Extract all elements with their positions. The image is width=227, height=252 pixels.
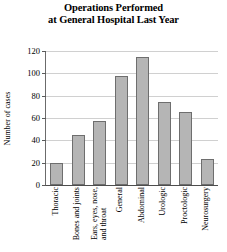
y-axis-tick-label: 100 xyxy=(27,68,40,78)
bar-slot xyxy=(154,51,176,185)
y-axis-tick-label: 40 xyxy=(32,135,41,145)
x-axis-label: Bones and joints xyxy=(73,187,82,240)
x-axis-label-slot: Thoracic xyxy=(45,187,67,251)
bar-slot xyxy=(111,51,133,185)
x-axis-label-slot: Ears, eyes, nose,and throat xyxy=(88,187,110,251)
bar xyxy=(93,121,106,185)
y-axis-tick-label: 120 xyxy=(27,46,40,56)
bar-slot xyxy=(197,51,219,185)
x-axis-label: General xyxy=(116,187,125,212)
y-axis-tick-label: 0 xyxy=(36,180,40,190)
bar-series xyxy=(46,51,218,185)
x-axis-label-line: Neurosurgery xyxy=(201,187,210,231)
x-axis-label-line: Thoracic xyxy=(51,187,60,215)
x-axis-label-slot: Urologic xyxy=(153,187,175,251)
bar xyxy=(136,57,149,185)
x-axis-label-slot: Proctologic xyxy=(174,187,196,251)
plot-area: 020406080100120 xyxy=(45,51,218,186)
chart-title-line-1: Operations Performed xyxy=(0,2,227,14)
x-axis-label: Abdominal xyxy=(138,187,147,223)
bar-slot xyxy=(132,51,154,185)
y-axis-tick-label: 20 xyxy=(32,158,41,168)
bar-slot xyxy=(68,51,90,185)
bar-chart: Operations Performed at General Hospital… xyxy=(0,0,227,252)
x-axis-label-line: General xyxy=(115,187,124,212)
bar xyxy=(72,135,85,185)
bar-slot xyxy=(175,51,197,185)
x-axis-label-slot: Bones and joints xyxy=(67,187,89,251)
bar xyxy=(50,163,63,185)
x-axis-category-labels: ThoracicBones and jointsEars, eyes, nose… xyxy=(45,187,217,251)
bar xyxy=(158,102,171,185)
chart-title-line-2: at General Hospital Last Year xyxy=(0,14,227,26)
bar xyxy=(179,112,192,185)
y-axis-tick-label: 60 xyxy=(32,113,41,123)
x-axis-label-line: Ears, eyes, nose, xyxy=(89,187,98,240)
x-axis-label-slot: Abdominal xyxy=(131,187,153,251)
x-axis-label-line: Bones and joints xyxy=(72,187,81,240)
x-axis-label-slot: General xyxy=(110,187,132,251)
x-axis-label: Thoracic xyxy=(52,187,61,215)
y-axis-tick xyxy=(42,185,46,186)
bar-slot xyxy=(46,51,68,185)
y-axis-tick-label: 80 xyxy=(32,91,41,101)
bar xyxy=(201,159,214,185)
chart-title: Operations Performed at General Hospital… xyxy=(0,2,227,26)
x-axis-label: Neurosurgery xyxy=(202,187,211,231)
x-axis-label-slot: Neurosurgery xyxy=(196,187,218,251)
y-axis-title-text: Number of cases xyxy=(4,91,13,145)
y-axis-title: Number of cases xyxy=(2,51,14,185)
x-axis-label-line: and throat xyxy=(99,187,108,240)
x-axis-label: Proctologic xyxy=(181,187,190,224)
bar xyxy=(115,76,128,185)
bar-slot xyxy=(89,51,111,185)
x-axis-label-line: Urologic xyxy=(158,187,167,215)
x-axis-label-line: Proctologic xyxy=(180,187,189,224)
x-axis-label-line: Abdominal xyxy=(137,187,146,223)
x-axis-label: Ears, eyes, nose,and throat xyxy=(90,187,107,240)
x-axis-label: Urologic xyxy=(159,187,168,215)
